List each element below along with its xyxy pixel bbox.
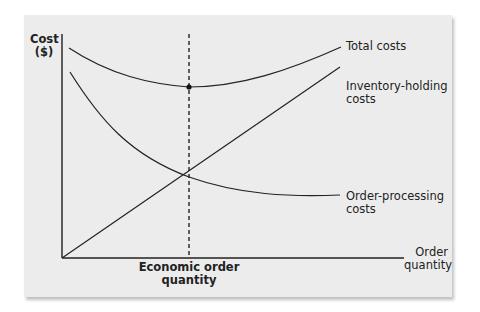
- eoq-label: Economic order quantity: [129, 261, 249, 287]
- inventory-holding-line: [62, 67, 340, 258]
- total-costs-curve: [69, 47, 341, 87]
- eoq-label-line2: quantity: [129, 274, 249, 287]
- inventory-label-line2: costs: [346, 93, 447, 106]
- order-processing-label: Order-processing costs: [346, 190, 444, 216]
- total-costs-text: Total costs: [346, 40, 406, 53]
- order-processing-curve: [70, 72, 340, 196]
- y-label-line2: ($): [30, 46, 58, 59]
- inventory-holding-label: Inventory-holding costs: [346, 80, 447, 106]
- order-processing-line2: costs: [346, 203, 444, 216]
- eoq-min-point: [186, 84, 191, 89]
- x-axis-label: Order quantity: [404, 246, 448, 272]
- y-axis-label: Cost ($): [30, 33, 58, 59]
- total-costs-label: Total costs: [346, 40, 406, 53]
- x-label-line2: quantity: [404, 259, 448, 272]
